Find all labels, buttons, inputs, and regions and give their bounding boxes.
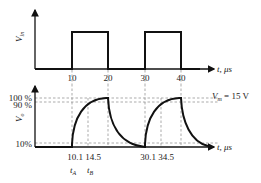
input-pulse-waveform <box>35 32 200 69</box>
rc-circuit-waveform-diagram: Vin t, μs 10 20 30 40 100 % 90 % 10% Vo … <box>0 0 261 183</box>
input-plot: Vin t, μs 10 20 30 40 <box>14 10 233 83</box>
marker-tA: tA <box>70 165 77 176</box>
tick-34-5: 34.5 <box>158 152 174 162</box>
output-plot: 100 % 90 % 10% Vo Vm = 15 V t, μs 10.1 1… <box>9 70 250 176</box>
marker-tB: tB <box>87 165 94 176</box>
output-ylabel: Vo <box>14 114 25 123</box>
vm-annotation: Vm = 15 V <box>212 91 250 102</box>
input-xlabel: t, μs <box>217 64 233 74</box>
level-90-label: 90 % <box>13 100 32 110</box>
tick-30-1: 30.1 <box>140 152 156 162</box>
input-ylabel: Vin <box>14 32 25 42</box>
output-xlabel: t, μs <box>217 142 233 152</box>
tick-10-1: 10.1 <box>67 152 83 162</box>
output-rc-waveform <box>35 98 208 147</box>
level-10-label: 10% <box>16 139 33 149</box>
tick-14-5: 14.5 <box>85 152 101 162</box>
